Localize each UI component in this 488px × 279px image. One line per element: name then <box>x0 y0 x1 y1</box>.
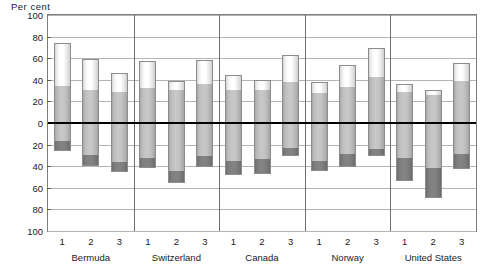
bar-segment-upper-mid <box>168 90 185 123</box>
bar-segment-lower-mid <box>396 123 413 158</box>
bar-segment-upper-mid <box>425 95 442 123</box>
x-axis-tick-label: 3 <box>202 236 207 247</box>
bar-segment-lower-mid <box>339 123 356 154</box>
y-axis-tick-label: 100 <box>0 226 43 237</box>
bar-segment-upper-light <box>311 82 328 93</box>
x-axis-tick-label: 1 <box>402 236 407 247</box>
bar-segment-lower-dark <box>54 141 71 151</box>
bar-segment-lower-mid <box>196 123 213 156</box>
y-axis-tick-mark <box>47 145 51 146</box>
bar-segment-lower-dark <box>225 161 242 175</box>
bar-segment-upper-light <box>54 43 71 86</box>
y-axis-tick-mark <box>47 166 51 167</box>
x-axis-tick-label: 2 <box>88 236 93 247</box>
bar-segment-upper-light <box>282 55 299 82</box>
y-axis-tick-label: 0 <box>0 118 43 129</box>
bar-segment-upper-light <box>111 73 128 91</box>
bar-segment-upper-mid <box>339 87 356 123</box>
bar-segment-lower-dark <box>453 154 470 169</box>
x-axis-group-label: Bermuda <box>72 252 111 263</box>
bar-segment-upper-light <box>396 84 413 92</box>
x-axis-group-labels: BermudaSwitzerlandCanadaNorwayUnited Sta… <box>0 252 488 268</box>
y-axis-tick-label: 40 <box>0 74 43 85</box>
y-axis-tick-mark <box>47 188 51 189</box>
x-axis-tick-label: 2 <box>431 236 436 247</box>
x-axis-group-label: Switzerland <box>152 252 201 263</box>
bar-segment-upper-mid <box>225 90 242 123</box>
x-axis-tick-label: 3 <box>288 236 293 247</box>
bar-segment-lower-mid <box>311 123 328 161</box>
x-axis-tick-label: 1 <box>316 236 321 247</box>
bar-segment-upper-light <box>196 60 213 84</box>
bar-segment-upper-mid <box>453 81 470 123</box>
y-axis-tick-label: 60 <box>0 53 43 64</box>
bar-segment-lower-mid <box>82 123 99 155</box>
bar-segment-lower-dark <box>282 148 299 157</box>
y-axis-tick-label: 60 <box>0 182 43 193</box>
y-axis-tick-label: 20 <box>0 96 43 107</box>
bar-segment-upper-mid <box>396 92 413 123</box>
bar-segment-upper-mid <box>282 82 299 123</box>
bar-segment-lower-dark <box>311 161 328 171</box>
zero-baseline <box>48 122 476 124</box>
y-axis-tick-mark <box>47 58 51 59</box>
plot-area <box>47 14 477 232</box>
bar-segment-lower-mid <box>54 123 71 141</box>
bar-segment-lower-mid <box>225 123 242 161</box>
x-axis-tick-label: 3 <box>117 236 122 247</box>
bar-segment-lower-mid <box>139 123 156 158</box>
bar-segment-lower-dark <box>82 155 99 166</box>
bar-segment-upper-mid <box>254 90 271 123</box>
y-axis-tick-label: 20 <box>0 139 43 150</box>
bar-segment-upper-mid <box>196 84 213 123</box>
x-axis-tick-label: 3 <box>373 236 378 247</box>
x-axis-tick-labels: 123123123123123 <box>0 236 488 250</box>
y-axis-tick-mark <box>47 101 51 102</box>
bar-segment-lower-mid <box>453 123 470 154</box>
bar-segment-lower-mid <box>254 123 271 159</box>
bar-segment-upper-mid <box>368 77 385 123</box>
bar-segment-upper-light <box>139 61 156 88</box>
bar-segment-lower-dark <box>368 149 385 157</box>
bar-segment-lower-mid <box>425 123 442 168</box>
y-axis-tick-label: 80 <box>0 204 43 215</box>
bar-segment-upper-mid <box>139 88 156 123</box>
bar-segment-lower-mid <box>282 123 299 148</box>
y-axis-tick-label: 100 <box>0 10 43 21</box>
gridline <box>48 231 476 232</box>
bar-segment-lower-dark <box>425 168 442 197</box>
bar-segment-lower-dark <box>168 171 185 184</box>
x-axis-tick-label: 2 <box>259 236 264 247</box>
bar-segment-upper-light <box>254 80 271 90</box>
bar-segment-upper-light <box>168 81 185 90</box>
y-axis-tick-mark <box>47 80 51 81</box>
bar-segment-lower-mid <box>368 123 385 149</box>
bar-segment-lower-dark <box>339 154 356 167</box>
y-axis-tick-label: 40 <box>0 161 43 172</box>
bar-segment-upper-light <box>453 63 470 81</box>
x-axis-tick-label: 1 <box>231 236 236 247</box>
bar-segment-upper-light <box>339 65 356 88</box>
x-axis-tick-label: 1 <box>60 236 65 247</box>
chart-root: Per cent 10080604020020406080100 1231231… <box>0 0 488 279</box>
y-axis-tick-labels: 10080604020020406080100 <box>0 14 43 232</box>
bar-segment-upper-mid <box>311 93 328 123</box>
bar-segment-upper-mid <box>82 90 99 123</box>
bar-segment-upper-mid <box>111 92 128 123</box>
bar-segment-lower-dark <box>139 158 156 169</box>
y-axis-tick-label: 80 <box>0 31 43 42</box>
x-axis-tick-label: 1 <box>145 236 150 247</box>
y-axis-tick-mark <box>47 37 51 38</box>
x-axis-group-label: Norway <box>331 252 363 263</box>
bar-segment-upper-light <box>368 48 385 76</box>
bar-segment-upper-light <box>82 59 99 89</box>
x-axis-tick-label: 3 <box>459 236 464 247</box>
y-axis-tick-mark <box>47 209 51 210</box>
bar-segment-lower-mid <box>168 123 185 171</box>
bar-segment-lower-dark <box>196 156 213 167</box>
x-axis-group-label: United States <box>405 252 462 263</box>
bar-segment-lower-dark <box>111 162 128 172</box>
bar-segment-lower-mid <box>111 123 128 162</box>
bar-segment-lower-dark <box>254 159 271 174</box>
bar-segment-upper-mid <box>54 86 71 123</box>
